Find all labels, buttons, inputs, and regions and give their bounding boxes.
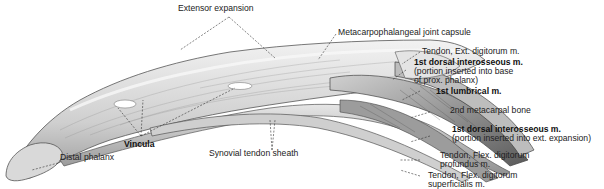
label-mcp-capsule: Metacarpophalangeal joint capsule	[338, 28, 471, 38]
label-lumbrical: 1st lumbrical m.	[436, 87, 501, 97]
label-tendon-ext: Tendon, Ext. digitorum m.	[422, 47, 519, 57]
label-flex-superficialis-2: superficialis m.	[428, 180, 485, 189]
label-flex-profundus-2: profundus m.	[440, 160, 490, 170]
label-extensor-expansion: Extensor expansion	[178, 4, 253, 14]
label-metacarpal: 2nd metacarpal bone	[450, 106, 531, 116]
label-dorsal-interosseous-2-sub: (portion inserted into ext. expansion)	[452, 134, 591, 144]
distal-phalanx-shape	[6, 143, 62, 181]
anatomy-figure: Extensor expansion Metacarpophalangeal j…	[0, 0, 604, 189]
label-synovial-sheath: Synovial tendon sheath	[209, 149, 298, 159]
label-distal-phalanx: Distal phalanx	[60, 153, 114, 163]
label-dorsal-interosseous-1-sub2: of prox. phalanx)	[414, 76, 478, 86]
label-vincula: Vincula	[124, 140, 154, 150]
